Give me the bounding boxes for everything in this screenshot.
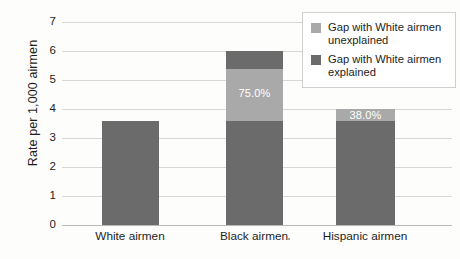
bar-segment-explained <box>226 121 283 225</box>
legend-swatch-icon <box>311 55 321 65</box>
bar-black-airmen[interactable]: 75.0% <box>226 51 283 225</box>
data-label-hispanic-airmen: 38.0% <box>336 109 395 121</box>
legend-label-unexplained: Gap with White airmen unexplained <box>328 21 449 47</box>
x-label-hispanic-airmen: Hispanic airmen <box>285 229 445 243</box>
y-tick-1: 1 <box>38 189 56 201</box>
legend-label-explained: Gap with White airmen explained <box>328 53 449 79</box>
chart-figure: Rate per 1,000 airmen 7 6 5 4 3 2 1 0 Wh… <box>0 0 460 259</box>
y-tick-2: 2 <box>38 160 56 172</box>
data-label-black-airmen: 75.0% <box>226 87 283 99</box>
bar-segment-explained <box>102 121 159 225</box>
legend: Gap with White airmen unexplained Gap wi… <box>302 12 456 88</box>
y-tick-6: 6 <box>38 44 56 56</box>
bar-white-airmen[interactable] <box>102 121 159 225</box>
y-tick-4: 4 <box>38 102 56 114</box>
bar-segment-explained <box>336 121 395 225</box>
scan-artifact-speck <box>288 238 290 240</box>
bar-segment-unexplained: 38.0% <box>336 109 395 121</box>
y-tick-3: 3 <box>38 131 56 143</box>
y-tick-7: 7 <box>38 15 56 27</box>
legend-swatch-icon <box>311 23 321 33</box>
bar-segment-unexplained: 75.0% <box>226 69 283 121</box>
x-axis-line <box>62 225 452 226</box>
bar-hispanic-airmen[interactable]: 38.0% <box>336 109 395 225</box>
y-tick-5: 5 <box>38 73 56 85</box>
legend-item-unexplained[interactable]: Gap with White airmen unexplained <box>311 21 449 47</box>
bar-segment-explained-upper <box>226 51 283 69</box>
legend-item-explained[interactable]: Gap with White airmen explained <box>311 53 449 79</box>
